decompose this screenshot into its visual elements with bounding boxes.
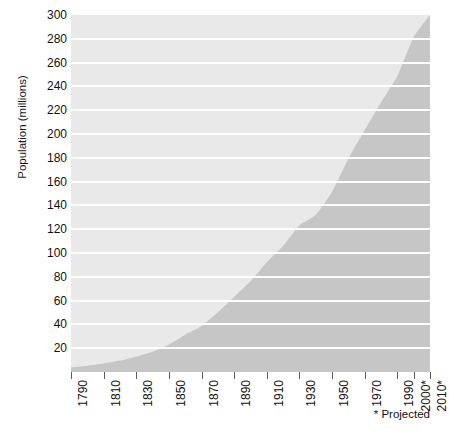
x-axis-tick-label: 2010* (435, 380, 449, 426)
y-axis-tick-label: 60 (30, 295, 67, 307)
gridline (71, 157, 430, 159)
gridline (71, 38, 430, 40)
y-axis-tick-label: 240 (30, 80, 67, 92)
y-axis-tick-label: 100 (30, 247, 67, 259)
x-axis-tick-mark (104, 372, 105, 379)
population-area-series (71, 15, 430, 372)
x-axis-tick-mark (414, 372, 415, 379)
x-axis-tick-mark (234, 372, 235, 379)
population-area-chart: Population (millions) 300280260240220200… (0, 0, 449, 442)
x-axis-tick-label: 1870 (207, 380, 221, 426)
gridline (71, 323, 430, 325)
x-axis-tick-mark (397, 372, 398, 379)
x-axis-tick-mark (169, 372, 170, 379)
y-axis-tick-label: 300 (30, 9, 67, 21)
gridline (71, 181, 430, 183)
x-axis-tick-label: 1890 (239, 380, 253, 426)
gridline (71, 133, 430, 135)
gridline (71, 204, 430, 206)
x-axis-tick-label: 1790 (76, 380, 90, 426)
x-axis-tick-label: 1910 (272, 380, 286, 426)
x-axis-tick-label: 1830 (141, 380, 155, 426)
y-axis-tick-label: 260 (30, 57, 67, 69)
x-axis-tick-mark (365, 372, 366, 379)
x-axis-tick-mark (332, 372, 333, 379)
plot-area (71, 15, 430, 372)
y-axis-tick-label: 140 (30, 199, 67, 211)
gridline (71, 85, 430, 87)
x-axis-tick-mark (267, 372, 268, 379)
x-axis-tick-label: 1810 (109, 380, 123, 426)
gridline (71, 300, 430, 302)
x-axis-tick-mark (71, 372, 72, 379)
x-axis-tick-mark (430, 372, 431, 379)
y-axis-tick-label: 40 (30, 318, 67, 330)
y-axis-tick-label: 220 (30, 104, 67, 116)
y-axis-tick-label: 200 (30, 128, 67, 140)
x-axis-tick-mark (299, 372, 300, 379)
y-axis-tick-label: 280 (30, 33, 67, 45)
projected-footnote: * Projected (300, 408, 430, 420)
x-axis-tick-label: 1850 (174, 380, 188, 426)
y-axis-tick-label: 80 (30, 271, 67, 283)
gridline (71, 276, 430, 278)
area-fill-path (71, 15, 430, 372)
y-axis-tick-label: 120 (30, 223, 67, 235)
y-axis-tick-label: 180 (30, 152, 67, 164)
gridline (71, 228, 430, 230)
gridline (71, 347, 430, 349)
y-axis-tick-label: 20 (30, 342, 67, 354)
gridline (71, 252, 430, 254)
gridline (71, 109, 430, 111)
gridline (71, 62, 430, 64)
y-axis-tick-label: 160 (30, 176, 67, 188)
x-axis-tick-mark (202, 372, 203, 379)
x-axis-tick-mark (136, 372, 137, 379)
